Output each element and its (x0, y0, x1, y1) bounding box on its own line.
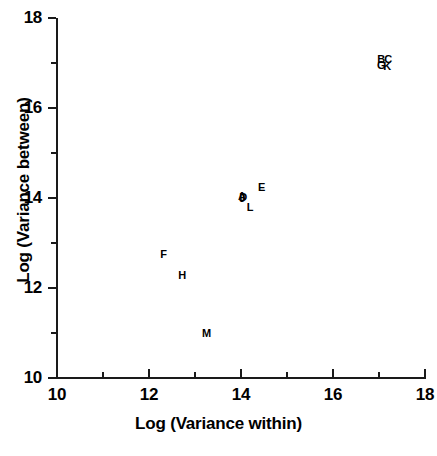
data-point-m: M (202, 328, 211, 339)
y-tick-minor (51, 332, 56, 334)
data-point-j: J (239, 193, 245, 204)
x-tick-major (424, 369, 426, 377)
x-tick-minor (378, 372, 380, 377)
x-tick-label: 16 (311, 386, 355, 403)
data-point-h: H (178, 269, 186, 280)
y-tick-major (48, 107, 56, 109)
x-tick-label: 10 (35, 386, 79, 403)
x-axis-title: Log (Variance within) (0, 414, 437, 434)
x-tick-minor (194, 372, 196, 377)
x-tick-minor (286, 372, 288, 377)
y-tick-minor (51, 152, 56, 154)
y-tick-major (48, 377, 56, 379)
y-tick-major (48, 287, 56, 289)
x-tick-label: 14 (219, 386, 263, 403)
x-tick-label: 12 (127, 386, 171, 403)
data-point-l: L (247, 202, 254, 213)
caption-remnant (8, 444, 308, 454)
data-point-e: E (258, 181, 265, 192)
data-point-f: F (160, 249, 167, 260)
data-point-k: K (383, 61, 391, 72)
y-axis-title: Log (Variance between) (14, 97, 33, 282)
y-tick-label: 10 (2, 369, 42, 386)
x-tick-major (332, 369, 334, 377)
x-tick-major (56, 369, 58, 377)
y-tick-minor (51, 242, 56, 244)
y-tick-minor (51, 62, 56, 64)
x-tick-label: 18 (403, 386, 437, 403)
y-axis-title-wrapper: Log (Variance between) (14, 70, 34, 310)
x-tick-major (240, 369, 242, 377)
y-axis-line (56, 18, 58, 379)
x-tick-minor (102, 372, 104, 377)
scatter-plot-figure: 10121416181012141618 BCGKEADJLFHM Log (V… (0, 0, 437, 456)
x-tick-major (148, 369, 150, 377)
x-axis-line (56, 377, 426, 379)
y-tick-major (48, 197, 56, 199)
y-tick-major (48, 17, 56, 19)
y-tick-label: 18 (2, 9, 42, 26)
